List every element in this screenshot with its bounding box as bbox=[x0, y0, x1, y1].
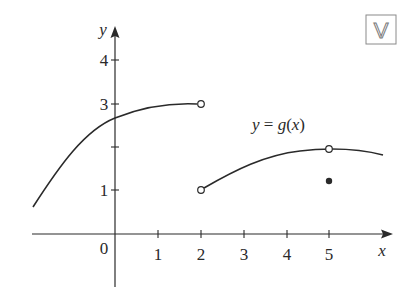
y-axis-label: y bbox=[97, 20, 107, 39]
y-tick-label-1: 1 bbox=[100, 181, 109, 200]
x-tick-label-2: 2 bbox=[197, 245, 206, 264]
open-endpoint-2-3 bbox=[198, 101, 205, 108]
x-axis-label: x bbox=[377, 241, 386, 260]
filled-point-5 bbox=[326, 178, 332, 184]
y-tick-label-3: 3 bbox=[100, 95, 109, 114]
origin-label: 0 bbox=[100, 239, 109, 258]
x-tick-label-5: 5 bbox=[325, 245, 334, 264]
v-badge: V bbox=[366, 15, 396, 44]
graph-canvas: 1 2 3 4 5 0 1 3 4 x y y = g(x) V bbox=[0, 0, 416, 296]
x-tick-label-4: 4 bbox=[283, 245, 292, 264]
open-endpoint-2-1 bbox=[198, 187, 205, 194]
x-tick-label-1: 1 bbox=[154, 245, 163, 264]
function-label: y = g(x) bbox=[250, 115, 305, 134]
x-tick-label-3: 3 bbox=[240, 245, 249, 264]
v-badge-icon: V bbox=[374, 18, 389, 43]
curve-right-piece bbox=[204, 149, 383, 188]
y-tick-label-4: 4 bbox=[100, 51, 109, 70]
open-hole-5 bbox=[326, 146, 333, 153]
